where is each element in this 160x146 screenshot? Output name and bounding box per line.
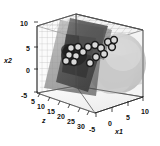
tick-label-x2: 5	[26, 45, 30, 52]
data-point	[109, 44, 116, 51]
scatter3d-plot: 1050-551015202530-50510x2zx1	[0, 0, 160, 146]
tick-label-x2: 10	[20, 20, 28, 27]
data-point	[63, 58, 70, 65]
tick-label-z: 15	[47, 108, 55, 115]
data-point	[87, 60, 94, 67]
axis-title-x2: x2	[4, 57, 12, 64]
data-point	[93, 54, 100, 61]
tick-label-x2: -5	[21, 92, 27, 99]
axis-title-z: z	[42, 117, 46, 124]
data-point	[68, 45, 75, 52]
tick-label-x1: 0	[108, 120, 112, 127]
tick-label-x1: 10	[141, 108, 149, 115]
data-point	[71, 59, 78, 66]
tick-label-z: 10	[37, 103, 45, 110]
tick-label-x1: 5	[126, 114, 130, 121]
tick-label-x2: 0	[26, 67, 30, 74]
data-point	[101, 51, 108, 58]
tick-label-z: 20	[57, 113, 65, 120]
data-point	[111, 37, 118, 44]
tick-label-z: 5	[31, 98, 35, 105]
tick-label-x1: -5	[89, 126, 95, 133]
tick-label-z: 25	[67, 118, 75, 125]
axis-title-x1: x1	[115, 128, 123, 135]
tick-label-z: 30	[77, 123, 85, 130]
data-point	[85, 44, 92, 51]
